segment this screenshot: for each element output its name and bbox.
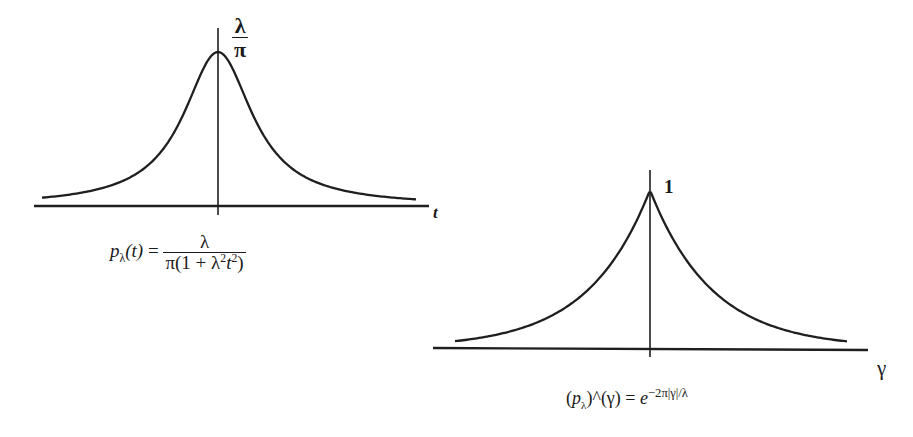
formula-numerator: λ [198, 232, 211, 252]
left-formula: pλ(t) = λ π(1 + λ2t2) [110, 232, 246, 274]
den-close: ) [237, 252, 243, 273]
right-axis-label-gamma: γ [877, 356, 886, 381]
right-peak-label: 1 [664, 176, 674, 198]
right-plot [433, 170, 868, 357]
right-formula: (pλ)^(γ) = e−2π|γ|/λ [566, 386, 688, 411]
den-part-1: π(1 + λ [165, 252, 220, 273]
formula2-arg: (γ) [601, 388, 621, 408]
formula2-exponent: −2π|γ|/λ [648, 386, 688, 400]
cauchy-curve [42, 52, 416, 199]
formula-denominator: π(1 + λ2t2) [163, 252, 245, 274]
formula2-base-e: e [640, 388, 648, 408]
formula2-equals: = [625, 388, 635, 408]
left-axis-label-t: t [433, 203, 438, 223]
left-peak-label: λ π [232, 14, 248, 62]
exponential-curve [455, 193, 847, 342]
formula2-close-hat: )^ [586, 388, 600, 408]
figure-canvas [0, 0, 913, 437]
formula-arg: (t) [125, 240, 143, 261]
peak-label-denominator: π [232, 37, 248, 62]
formula-equals: = [148, 240, 159, 261]
formula-p: p [110, 240, 120, 261]
peak-label-numerator: λ [233, 14, 248, 37]
formula2-p: p [572, 388, 581, 408]
